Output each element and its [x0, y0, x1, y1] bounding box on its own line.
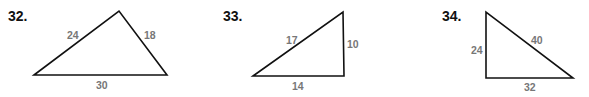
triangle-figures: 24 18 30 17 10 14 24 40 32 — [0, 0, 589, 97]
triangle-33-shape — [253, 12, 344, 76]
triangle-34-side-hypotenuse-label: 40 — [531, 34, 543, 46]
triangle-33-side-hypotenuse-label: 17 — [286, 34, 298, 46]
triangle-33: 17 10 14 — [253, 12, 359, 92]
triangle-34-side-vertical-label: 24 — [471, 44, 483, 56]
triangle-32-side-right-label: 18 — [144, 29, 156, 41]
triangle-34: 24 40 32 — [471, 12, 573, 93]
triangle-33-side-vertical-label: 10 — [347, 38, 359, 50]
triangle-32-side-bottom-label: 30 — [96, 79, 108, 91]
triangle-34-side-bottom-label: 32 — [524, 81, 536, 93]
triangle-32-shape — [34, 11, 167, 75]
triangle-32: 24 18 30 — [34, 11, 167, 91]
triangle-32-side-left-label: 24 — [67, 29, 79, 41]
triangle-34-shape — [486, 12, 573, 78]
triangle-33-side-bottom-label: 14 — [292, 80, 304, 92]
